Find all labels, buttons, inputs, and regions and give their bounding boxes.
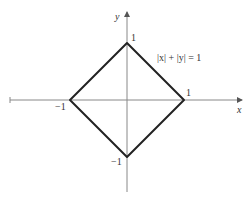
vertex-label-bottom: −1 bbox=[111, 156, 122, 167]
x-axis-label: x bbox=[236, 104, 242, 115]
equation-label: |x| + |y| = 1 bbox=[157, 52, 201, 63]
vertex-label-left: −1 bbox=[55, 101, 66, 112]
diamond-figure: y x 1 1 −1 −1 |x| + |y| = 1 bbox=[0, 0, 251, 197]
vertex-label-top: 1 bbox=[131, 32, 136, 43]
vertex-label-right: 1 bbox=[186, 87, 191, 98]
y-axis-label: y bbox=[114, 11, 120, 22]
